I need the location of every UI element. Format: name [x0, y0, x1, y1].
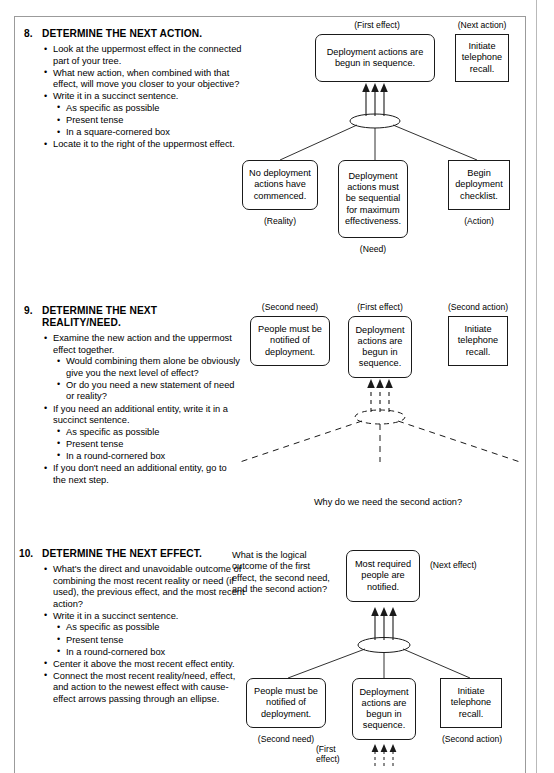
- caption-second-action: (Second action): [426, 302, 530, 312]
- section-8-bullets: Look at the uppermost effect in the conn…: [42, 44, 242, 151]
- list-item: As specific as possible: [66, 622, 247, 634]
- section-8-title: DETERMINE THE NEXT ACTION.: [42, 28, 242, 40]
- caption-second-need: (Second need): [246, 734, 326, 744]
- caption-next-action: (Next action): [434, 20, 530, 30]
- list-item: Present tense: [66, 439, 242, 451]
- section-9-diagram: (Second need) (First effect) (Second act…: [230, 300, 530, 520]
- list-item: Center it above the most recent effect e…: [53, 659, 247, 671]
- node-reality[interactable]: No deployment actions have commenced.: [242, 160, 318, 210]
- caption-first-effect: (First effect): [322, 20, 432, 30]
- list-item: Or do you need a new statement of need o…: [66, 380, 242, 403]
- caption-first-effect: (First effect): [342, 302, 418, 312]
- list-item: What's the direct and unavoidable outcom…: [53, 564, 247, 610]
- caption-need: (Need): [338, 244, 408, 254]
- caption-next-effect: (Next effect): [430, 560, 480, 570]
- list-item: As specific as possible: [66, 103, 242, 115]
- node-first-effect[interactable]: Deployment actions are begun in sequence…: [315, 34, 435, 82]
- section-10-diagram: What is the logical outcome of the first…: [228, 548, 530, 773]
- section-8-diagram: (First effect) (Next action) Deployment …: [230, 20, 530, 265]
- list-item: In a round-cornered box: [66, 647, 247, 659]
- node-next-action[interactable]: Initiate telephone recall.: [455, 34, 509, 82]
- section-8-number: 8.: [24, 28, 33, 39]
- node-next-effect[interactable]: Most required people are notified.: [346, 550, 420, 602]
- section-9-question: Why do we need the second action?: [258, 497, 518, 508]
- node-first-effect[interactable]: Deployment actions are begun in sequence…: [348, 316, 412, 378]
- node-second-need[interactable]: People must be notified of deployment.: [246, 678, 326, 728]
- node-first-effect[interactable]: Deployment actions are begun in sequence…: [352, 678, 416, 740]
- caption-second-action: (Second action): [432, 734, 512, 744]
- section-9-title: DETERMINE THE NEXT REALITY/NEED.: [42, 305, 192, 329]
- list-item: Write it in a succinct sentence. As spec…: [53, 91, 242, 138]
- node-second-action[interactable]: Initiate telephone recall.: [448, 316, 508, 366]
- list-item: What new action, when combined with that…: [53, 68, 242, 91]
- section-9-bullets: Examine the new action and the uppermost…: [42, 333, 242, 487]
- list-item: Present tense: [66, 115, 242, 127]
- section-9-number: 9.: [24, 305, 33, 316]
- list-item: Would combining them alone be obviously …: [66, 356, 242, 379]
- node-second-need[interactable]: People must be notified of deployment.: [250, 316, 330, 366]
- list-item: Connect the most recent reality/need, ef…: [53, 671, 247, 706]
- section-10-title: DETERMINE THE NEXT EFFECT.: [42, 548, 242, 560]
- section-10-number: 10.: [19, 548, 33, 559]
- node-need[interactable]: Deployment actions must be sequential fo…: [338, 160, 408, 238]
- node-action[interactable]: Begin deployment checklist.: [448, 160, 510, 210]
- caption-first-effect: (First effect): [316, 744, 350, 764]
- node-second-action[interactable]: Initiate telephone recall.: [440, 678, 502, 728]
- section-10-question: What is the logical outcome of the first…: [232, 550, 332, 596]
- list-item: Look at the uppermost effect in the conn…: [53, 44, 242, 67]
- section-10-bullets: What's the direct and unavoidable outcom…: [42, 564, 247, 706]
- caption-reality: (Reality): [242, 216, 318, 226]
- list-item: Locate it to the right of the uppermost …: [53, 139, 242, 151]
- list-item: As specific as possible: [66, 427, 242, 439]
- list-item: Examine the new action and the uppermost…: [53, 333, 242, 403]
- list-item: If you don't need an additional entity, …: [53, 463, 242, 486]
- caption-second-need: (Second need): [235, 302, 345, 312]
- list-item: Write it in a succinct sentence. As spec…: [53, 611, 247, 658]
- list-item: Present tense: [66, 635, 247, 647]
- list-item: In a round-cornered box: [66, 451, 242, 463]
- page-right-edge: [536, 0, 537, 773]
- list-item: If you need an additional entity, write …: [53, 404, 242, 463]
- list-item: In a square-cornered box: [66, 127, 242, 139]
- caption-action: (Action): [448, 216, 510, 226]
